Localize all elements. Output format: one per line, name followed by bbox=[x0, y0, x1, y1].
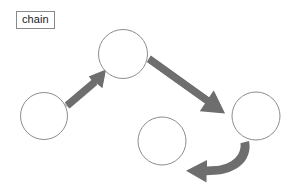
diagram-canvas bbox=[0, 0, 298, 196]
circle-bottom-middle[interactable] bbox=[138, 117, 186, 165]
circle-left[interactable] bbox=[21, 93, 68, 140]
circle-top[interactable] bbox=[99, 30, 148, 79]
circle-right[interactable] bbox=[232, 92, 280, 140]
chain-diagram: chain bbox=[0, 0, 298, 196]
